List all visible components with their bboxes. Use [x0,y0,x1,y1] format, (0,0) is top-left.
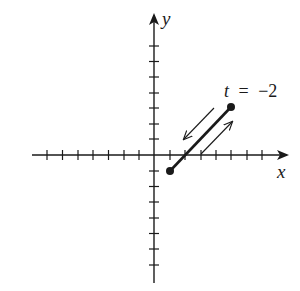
parametric-plot-figure: y x t = −2 [0,0,300,291]
param-value: −2 [258,81,277,101]
endpoint-label: t = −2 [224,81,277,101]
param-equals: = [239,81,249,101]
start-point [166,167,174,175]
arrow-down-left-icon [184,108,214,139]
parametric-segment [166,103,235,175]
arrow-up-right-icon [201,122,232,154]
param-variable: t [224,81,230,101]
x-axis-label: x [276,161,286,182]
x-axis [32,150,287,160]
y-axis [149,15,159,283]
y-axis-label: y [160,8,171,29]
end-point [227,103,235,111]
